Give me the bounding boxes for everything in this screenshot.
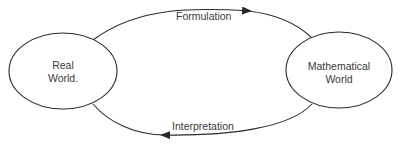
interpretation-arc-tail — [93, 104, 165, 135]
real-world-label-line1: Real — [52, 59, 74, 71]
formulation-edge: Formulation — [93, 9, 311, 40]
modelling-cycle-diagram: Formulation Interpretation Real World. M… — [0, 0, 400, 153]
mathematical-world-label-line2: World — [325, 73, 352, 85]
formulation-label: Formulation — [176, 10, 232, 22]
interpretation-edge: Interpretation — [93, 104, 312, 135]
real-world-ellipse — [9, 33, 117, 109]
mathematical-world-node: Mathematical World — [286, 32, 392, 108]
real-world-label-line2: World. — [48, 72, 78, 84]
real-world-node: Real World. — [9, 33, 117, 109]
formulation-arc-tail — [248, 11, 311, 37]
interpretation-label: Interpretation — [172, 120, 234, 132]
mathematical-world-label-line1: Mathematical — [308, 60, 370, 72]
